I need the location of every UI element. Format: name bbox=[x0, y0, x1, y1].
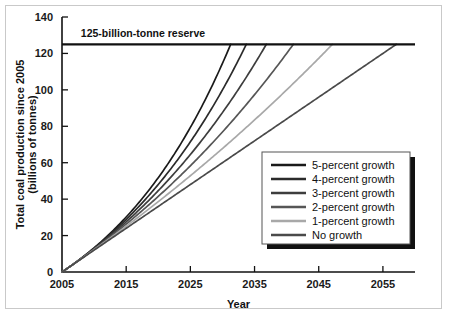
y-tick-label: 100 bbox=[35, 84, 53, 96]
y-tick-label: 40 bbox=[41, 193, 53, 205]
x-axis-title: Year bbox=[227, 298, 251, 310]
coal-production-chart: 0204060801001201402005201520252035204520… bbox=[0, 0, 451, 318]
x-tick-label: 2005 bbox=[50, 278, 74, 290]
x-tick-label: 2045 bbox=[306, 278, 330, 290]
legend-label-2: 4-percent growth bbox=[312, 173, 395, 185]
y-tick-label: 120 bbox=[35, 47, 53, 59]
series-line-4-percent-growth bbox=[62, 44, 246, 272]
y-tick-label: 140 bbox=[35, 11, 53, 23]
x-tick-label: 2015 bbox=[114, 278, 138, 290]
y-tick-label: 0 bbox=[47, 266, 53, 278]
y-tick-label: 20 bbox=[41, 230, 53, 242]
legend-label-5: 1-percent growth bbox=[312, 215, 395, 227]
legend-label-4: 2-percent growth bbox=[312, 201, 395, 213]
chart-figure: 0204060801001201402005201520252035204520… bbox=[0, 0, 451, 318]
series-line-2-percent-growth bbox=[62, 44, 293, 272]
x-tick-label: 2025 bbox=[178, 278, 202, 290]
y-tick-label: 60 bbox=[41, 157, 53, 169]
legend-label-6: No growth bbox=[312, 229, 362, 241]
series-line-5-percent-growth bbox=[62, 44, 231, 272]
series-line-3-percent-growth bbox=[62, 44, 266, 272]
y-axis-title-line1: Total coal production since 2005 bbox=[14, 60, 26, 230]
legend-label-1: 5-percent growth bbox=[312, 159, 395, 171]
legend-label-3: 3-percent growth bbox=[312, 187, 395, 199]
reserve-annotation-label: 125-billion-tonne reserve bbox=[81, 27, 205, 39]
x-tick-label: 2035 bbox=[242, 278, 266, 290]
x-tick-label: 2055 bbox=[371, 278, 395, 290]
y-axis-title-line2: (billions of tonnes) bbox=[26, 95, 38, 194]
y-tick-label: 80 bbox=[41, 120, 53, 132]
